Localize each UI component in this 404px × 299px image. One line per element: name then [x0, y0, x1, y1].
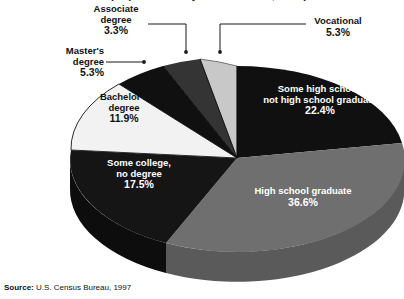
label-associate-line1: Associate: [84, 4, 148, 15]
source-text: U.S. Census Bureau, 1997: [34, 283, 131, 292]
pie-graphic: [0, 0, 404, 299]
label-some-college-percent: 17.5%: [93, 179, 185, 190]
pie-chart-figure: (Population 25 years and over, 1997): [0, 0, 404, 299]
label-vocational-percent: 5.3%: [308, 27, 368, 38]
label-masters-percent: 5.3%: [40, 67, 104, 78]
label-associate-percent: 3.3%: [84, 25, 148, 36]
label-vocational: Vocational 5.3%: [308, 16, 368, 37]
label-associate-degree: Associate degree 3.3%: [84, 4, 148, 36]
label-some-college-line1: Some college,: [93, 158, 185, 169]
source-note: Source: U.S. Census Bureau, 1997: [4, 283, 131, 292]
leader-line-masters: [106, 60, 146, 64]
label-some-college: Some college, no degree 17.5%: [93, 158, 185, 190]
label-vocational-line1: Vocational: [308, 16, 368, 27]
label-high-school-graduate: High school graduate 36.6%: [240, 186, 366, 207]
label-high-school-graduate-percent: 36.6%: [240, 197, 366, 208]
label-bachelors-line1: Bachelor's: [86, 92, 162, 103]
label-masters-degree: Master's degree 5.3%: [40, 46, 104, 78]
label-some-high-school: Some high school, not high school gradua…: [250, 84, 390, 116]
leader-line-vocational: [218, 24, 306, 54]
source-label: Source:: [4, 283, 34, 292]
label-masters-line1: Master's: [40, 46, 104, 57]
leader-line-associate: [148, 24, 188, 54]
label-bachelors-degree: Bachelor's degree 11.9%: [86, 92, 162, 124]
label-some-high-school-percent: 22.4%: [250, 105, 390, 116]
label-some-high-school-line1: Some high school,: [250, 84, 390, 95]
label-high-school-graduate-line1: High school graduate: [240, 186, 366, 197]
label-bachelors-percent: 11.9%: [86, 113, 162, 124]
